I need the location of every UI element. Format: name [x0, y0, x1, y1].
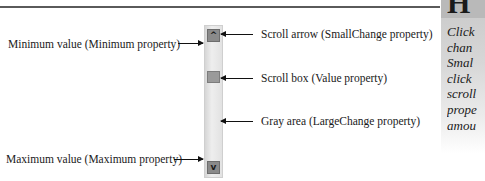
sidebar-heading-glyph: H: [447, 0, 470, 18]
sidebar-line: amou: [447, 118, 485, 134]
scroll-box-label: Scroll box (Value property): [261, 71, 387, 85]
scroll-down-button[interactable]: v: [207, 161, 220, 174]
sidebar-line: chan: [447, 40, 485, 56]
chevron-up-icon: ^: [210, 31, 218, 40]
scroll-arrow-pointer: [221, 34, 253, 35]
minimum-arrow: [178, 43, 203, 44]
gray-area-label: Gray area (LargeChange property): [261, 114, 420, 128]
sidebar-line: click: [447, 71, 485, 87]
minimum-value-label: Minimum value (Minimum property): [8, 37, 180, 51]
sidebar-line: prope: [447, 102, 485, 118]
maximum-arrow: [174, 159, 203, 160]
vertical-scrollbar[interactable]: ^ v: [204, 25, 223, 178]
top-rule: [0, 6, 440, 8]
maximum-value-label: Maximum value (Maximum property): [6, 152, 182, 166]
scroll-arrow-label: Scroll arrow (SmallChange property): [261, 27, 433, 41]
sidebar-note-text: Click chan Smal click scroll prope amou: [447, 24, 485, 133]
gray-area-pointer: [221, 121, 253, 122]
chevron-down-icon: v: [211, 163, 217, 172]
sidebar-line: scroll: [447, 86, 485, 102]
scroll-box[interactable]: [207, 71, 220, 83]
sidebar-heading: H: [441, 0, 485, 18]
scroll-box-pointer: [221, 78, 253, 79]
scroll-up-button[interactable]: ^: [207, 29, 220, 42]
sidebar-line: Smal: [447, 55, 485, 71]
sidebar-line: Click: [447, 24, 485, 40]
